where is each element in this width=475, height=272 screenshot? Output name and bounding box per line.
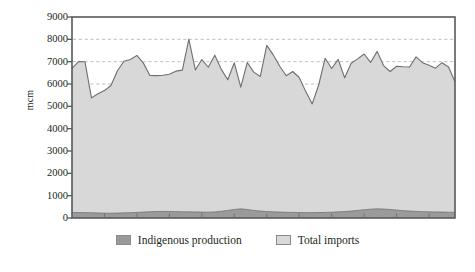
chart-figure: mcm 900080007000600050004000300020001000…: [0, 0, 475, 272]
plot-area: [0, 0, 475, 272]
legend-label: Total imports: [298, 234, 359, 246]
legend-swatch: [276, 235, 291, 245]
legend-item[interactable]: Total imports: [276, 234, 359, 246]
legend-swatch: [116, 235, 131, 245]
chart-legend: Indigenous productionTotal imports: [0, 234, 475, 246]
legend-item[interactable]: Indigenous production: [116, 234, 242, 246]
legend-label: Indigenous production: [138, 234, 242, 246]
